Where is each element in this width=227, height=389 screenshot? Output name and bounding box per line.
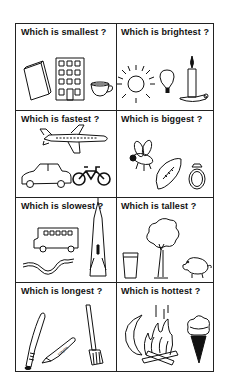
worksheet-grid: Which is smallest ?: [15, 23, 214, 372]
rocket-icon: [16, 198, 116, 282]
cell-hottest: Which is hottest ?: [116, 283, 215, 372]
cell-biggest: Which is biggest ?: [116, 111, 215, 197]
cell-tallest: Which is tallest ?: [116, 198, 215, 282]
cell-smallest: Which is smallest ?: [16, 24, 116, 111]
broom-icon: [16, 283, 116, 372]
cell-fastest: Which is fastest ?: [16, 111, 116, 197]
ring-icon: [116, 111, 215, 197]
pig-icon: [116, 198, 215, 282]
cell-brightest: Which is brightest ?: [116, 24, 215, 111]
teacup-icon: [16, 24, 116, 111]
cell-longest: Which is longest ? crayon: [16, 283, 116, 372]
cell-slowest: Which is slowest ?: [16, 198, 116, 282]
candle-icon: [116, 24, 215, 111]
bicycle-icon: [16, 111, 116, 197]
ice-cream-cone-icon: [116, 283, 215, 372]
